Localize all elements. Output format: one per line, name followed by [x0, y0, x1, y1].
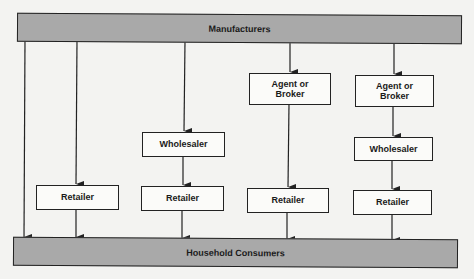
manufacturers-bar: Manufacturers — [17, 13, 462, 45]
channel4-retailer-box: Retailer — [247, 188, 329, 213]
channel5-agent-broker-box: Agent or Broker — [355, 75, 434, 107]
channel5-wholesaler-box: Wholesaler — [354, 137, 433, 161]
channel5-retailer-box: Retailer — [353, 190, 432, 215]
channel4-agent-broker-box: Agent or Broker — [249, 73, 331, 105]
household-consumers-bar: Household Consumers — [13, 237, 458, 269]
channel3-wholesaler-box: Wholesaler — [142, 132, 225, 157]
channel3-retailer-box: Retailer — [141, 186, 224, 211]
channel2-retailer-box: Retailer — [36, 185, 119, 210]
